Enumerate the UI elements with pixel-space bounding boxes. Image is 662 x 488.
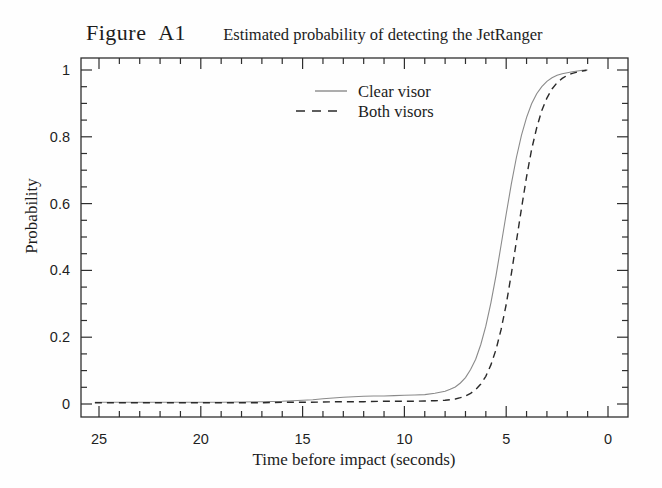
- x-tick-label: 0: [604, 431, 612, 447]
- legend-label-both-visors: Both visors: [358, 102, 434, 121]
- x-tick-label: 10: [396, 431, 412, 447]
- clear-visor-curve: [95, 70, 588, 402]
- y-tick-labels: 00.20.40.60.81: [50, 62, 70, 412]
- y-tick-label: 0.6: [50, 196, 70, 212]
- y-axis-title: Probability: [22, 178, 41, 254]
- x-tick-label: 25: [91, 431, 107, 447]
- probability-chart: 2520151050 00.20.40.60.81 Clear visor Bo…: [0, 0, 662, 488]
- x-tick-labels: 2520151050: [91, 431, 612, 447]
- y-tick-label: 0.4: [50, 262, 70, 278]
- y-tick-label: 0.8: [50, 129, 70, 145]
- y-tick-label: 0.2: [50, 329, 70, 345]
- x-axis-title: Time before impact (seconds): [253, 450, 456, 469]
- y-tick-label: 0: [62, 396, 70, 412]
- x-tick-label: 15: [295, 431, 311, 447]
- both-visors-curve: [95, 70, 587, 402]
- axis-ticks: [81, 58, 628, 417]
- x-tick-label: 20: [193, 431, 209, 447]
- plot-border: [81, 58, 628, 417]
- x-tick-label: 5: [502, 431, 510, 447]
- legend-label-clear-visor: Clear visor: [358, 82, 431, 101]
- y-tick-label: 1: [62, 62, 70, 78]
- document-page: Figure A1 Estimated probability of detec…: [0, 0, 662, 488]
